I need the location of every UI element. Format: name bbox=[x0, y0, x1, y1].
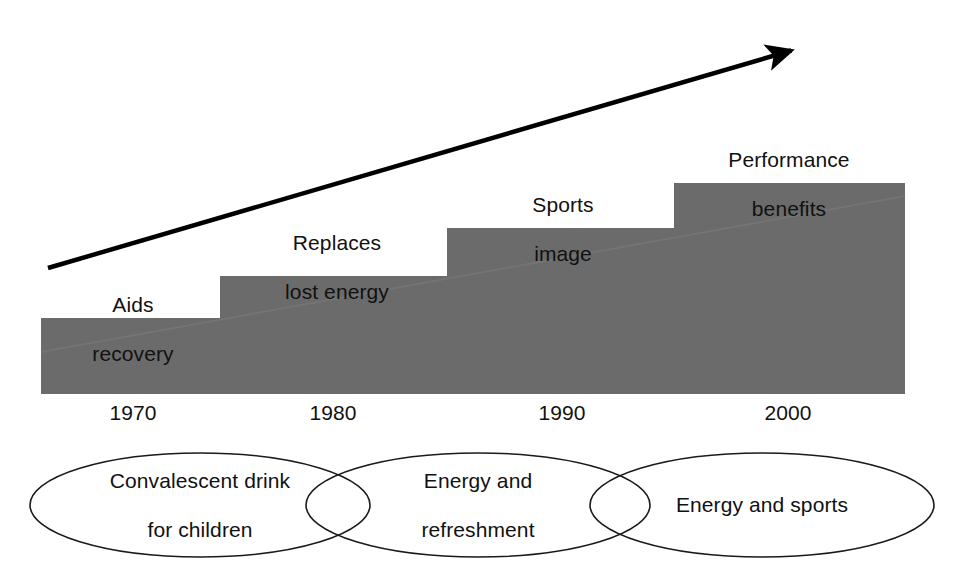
step-label-line1: Replaces bbox=[285, 231, 389, 256]
figure-canvas: Aids recovery Replaces lost energy Sport… bbox=[0, 0, 963, 580]
ellipse-label-line1: Energy and sports bbox=[676, 493, 848, 518]
year-label-2000: 2000 bbox=[764, 401, 811, 426]
step-label-sports-image: Sports image bbox=[532, 168, 593, 291]
step-label-aids-recovery: Aids recovery bbox=[92, 268, 173, 391]
step-label-performance-benefits: Performance benefits bbox=[728, 123, 849, 246]
ellipse-label-energy-refreshment: Energy and refreshment bbox=[421, 444, 534, 567]
ellipse-label-energy-sports: Energy and sports bbox=[676, 468, 848, 542]
step-label-line1: Aids bbox=[92, 293, 173, 318]
step-label-replaces-lost-energy: Replaces lost energy bbox=[285, 206, 389, 329]
ellipse-label-line1: Convalescent drink bbox=[110, 468, 290, 493]
ellipse-label-convalescent: Convalescent drink for children bbox=[110, 444, 290, 567]
year-label-1980: 1980 bbox=[309, 401, 356, 426]
step-label-line2: benefits bbox=[728, 197, 849, 222]
step-label-line2: image bbox=[532, 242, 593, 267]
step-label-line1: Sports bbox=[532, 193, 593, 218]
ellipse-label-line2: for children bbox=[110, 517, 290, 542]
step-label-line1: Performance bbox=[728, 148, 849, 173]
step-label-line2: recovery bbox=[92, 342, 173, 367]
year-label-1990: 1990 bbox=[538, 401, 585, 426]
ellipse-label-line2: refreshment bbox=[421, 517, 534, 542]
year-label-1970: 1970 bbox=[109, 401, 156, 426]
ellipse-label-line1: Energy and bbox=[421, 468, 534, 493]
step-label-line2: lost energy bbox=[285, 280, 389, 305]
